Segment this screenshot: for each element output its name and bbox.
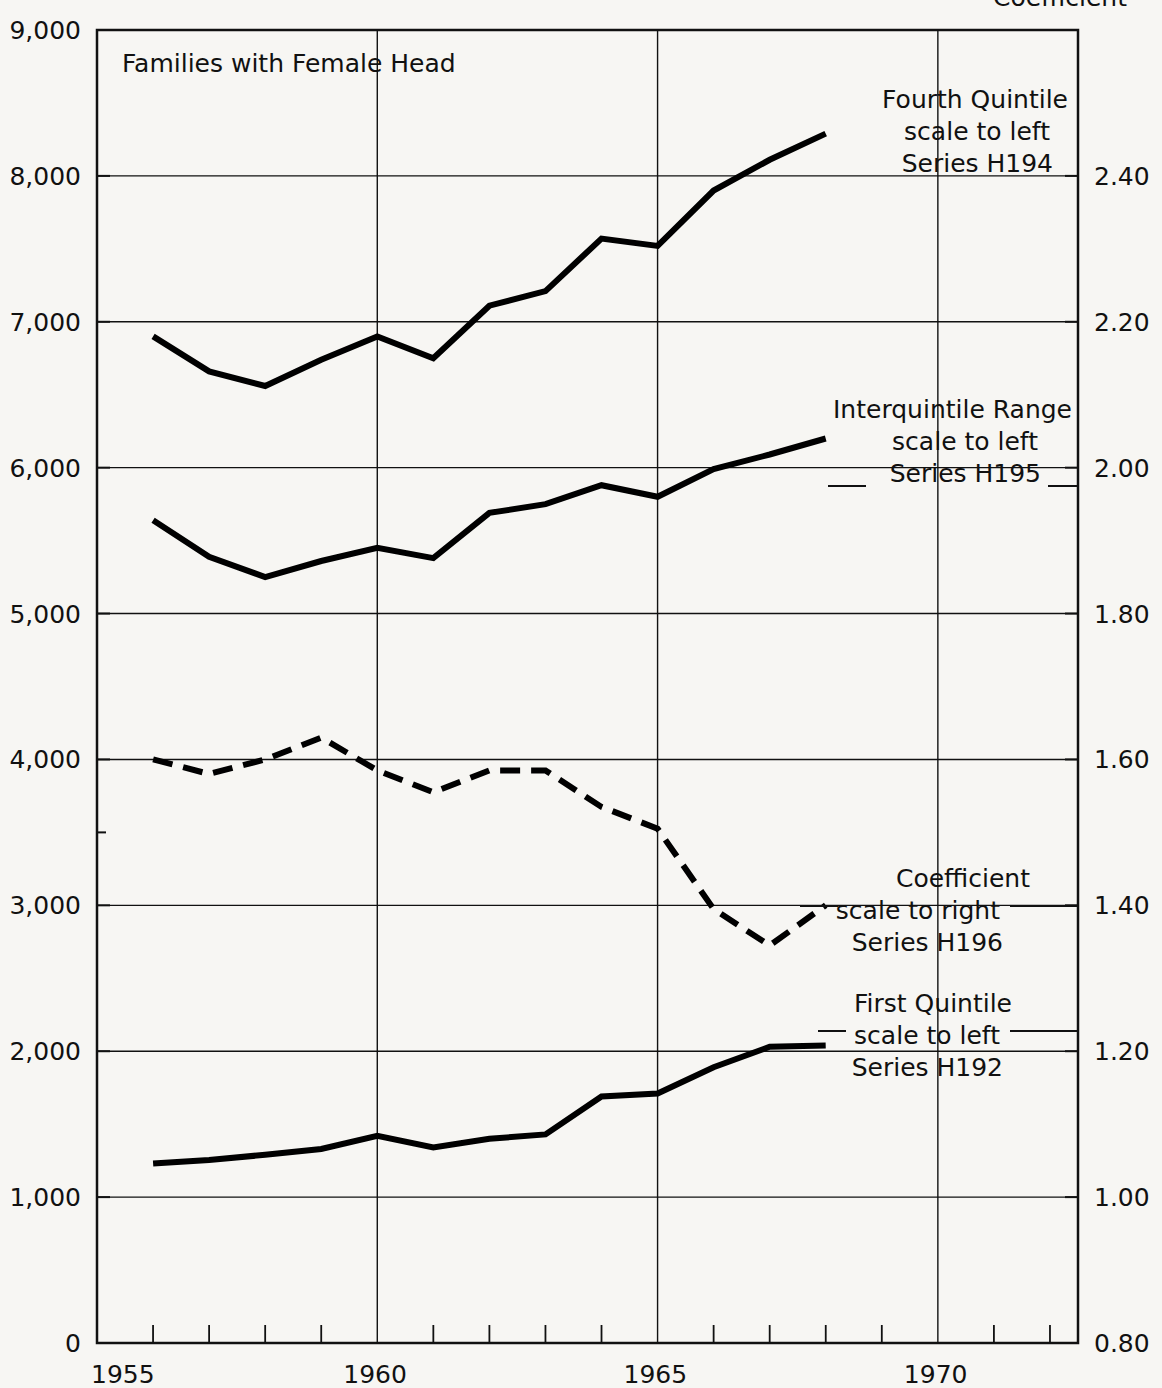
annotation-coefficient-line2: scale to right <box>836 896 1000 925</box>
left-axis-tick-label: 1,000 <box>9 1183 81 1212</box>
right-axis-tick-label: 2.40 <box>1094 162 1150 191</box>
annotation-first-quintile-line1: First Quintile <box>854 989 1012 1018</box>
x-axis-tick-label: 1965 <box>624 1360 688 1388</box>
left-axis-tick-label: 8,000 <box>9 162 81 191</box>
right-axis-tick-label: 2.20 <box>1094 308 1150 337</box>
left-axis-tick-label: 7,000 <box>9 308 81 337</box>
annotation-coefficient-line3: Series H196 <box>852 928 1003 957</box>
chart-container: Coefficient 01,0002,0003,0004,0005,0006,… <box>0 0 1162 1388</box>
right-axis-tick-label: 1.80 <box>1094 600 1150 629</box>
annotation-coefficient-line1: Coefficient <box>896 864 1030 893</box>
annotation-first-quintile-line3: Series H192 <box>852 1053 1003 1082</box>
left-axis-tick-label: 5,000 <box>9 600 81 629</box>
left-axis-tick-label: 3,000 <box>9 891 81 920</box>
right-axis-tick-label: 0.80 <box>1094 1329 1150 1358</box>
annotation-fourth-quintile-line1: Fourth Quintile <box>882 85 1068 114</box>
top-cut-label: Coefficient <box>993 0 1127 12</box>
left-axis-tick-label: 9,000 <box>9 16 81 45</box>
annotation-interquintile-line1: Interquintile Range <box>833 395 1072 424</box>
right-axis-tick-label: 1.60 <box>1094 745 1150 774</box>
right-axis-tick-label: 2.00 <box>1094 454 1150 483</box>
x-axis-tick-label: 1970 <box>904 1360 968 1388</box>
annotation-interquintile-line2: scale to left <box>892 427 1038 456</box>
line-chart-figure: Coefficient 01,0002,0003,0004,0005,0006,… <box>0 0 1162 1388</box>
right-axis-tick-label: 1.20 <box>1094 1037 1150 1066</box>
right-axis-tick-label: 1.00 <box>1094 1183 1150 1212</box>
figure-background <box>0 0 1162 1388</box>
annotation-fourth-quintile: Fourth Quintile scale to left Series H19… <box>882 85 1068 178</box>
annotation-first-quintile: First Quintile scale to left Series H192 <box>852 989 1012 1082</box>
left-axis-tick-label: 2,000 <box>9 1037 81 1066</box>
annotation-first-quintile-line2: scale to left <box>854 1021 1000 1050</box>
left-axis-tick-label: 6,000 <box>9 454 81 483</box>
left-axis-tick-label: 4,000 <box>9 745 81 774</box>
right-axis-tick-label: 1.40 <box>1094 891 1150 920</box>
x-axis-tick-label: 1955 <box>91 1360 155 1388</box>
annotation-fourth-quintile-line3: Series H194 <box>902 149 1053 178</box>
annotation-interquintile-line3: Series H195 <box>890 459 1041 488</box>
left-axis-tick-label: 0 <box>65 1329 81 1358</box>
x-axis-tick-label: 1960 <box>343 1360 407 1388</box>
annotation-fourth-quintile-line2: scale to left <box>904 117 1050 146</box>
plot-title: Families with Female Head <box>122 49 456 78</box>
